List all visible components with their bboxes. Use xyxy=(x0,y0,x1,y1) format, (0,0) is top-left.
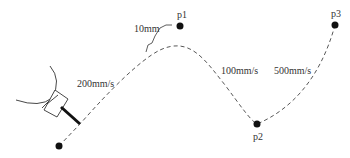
point-p2 xyxy=(254,121,261,128)
robot-tool-icon xyxy=(16,66,80,124)
label-p2: p2 xyxy=(253,132,263,142)
start-point xyxy=(56,143,63,150)
point-p1 xyxy=(177,23,184,30)
point-p3 xyxy=(332,22,339,29)
label-p3: p3 xyxy=(331,9,341,19)
robot-path-diagram: p1 p2 p3 10mm 200mm/s 100mm/s 500mm/s xyxy=(0,0,350,158)
speed-label-segment3: 500mm/s xyxy=(274,66,311,76)
zone-label: 10mm xyxy=(134,24,160,34)
diagram-svg xyxy=(0,0,350,158)
label-p1: p1 xyxy=(177,10,187,20)
speed-label-segment2: 100mm/s xyxy=(221,66,258,76)
speed-label-segment1: 200mm/s xyxy=(77,79,114,89)
